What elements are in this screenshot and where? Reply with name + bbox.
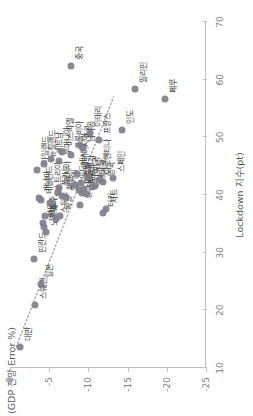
data-point-label: 캐나다 (41, 171, 52, 192)
data-point[interactable] (76, 202, 83, 209)
y-tick-label: -20 (162, 377, 172, 392)
data-point-label: 아르헨티나 (101, 139, 112, 174)
data-point[interactable] (42, 212, 49, 219)
data-point-label: 일본 (43, 264, 54, 278)
data-point-label: 미국 (89, 157, 100, 171)
x-tick-label: 30 (215, 247, 225, 258)
y-tick-label: -25 (201, 377, 211, 392)
data-point[interactable] (86, 129, 93, 136)
data-point[interactable] (162, 95, 169, 102)
data-point[interactable] (40, 160, 47, 167)
y-tick-mark (128, 368, 129, 372)
data-point[interactable] (74, 170, 81, 177)
rotated-figure-wrapper: (GDP 전망 Error %) Lockdown 지수(pt) 1020304… (0, 0, 253, 416)
data-point[interactable] (131, 85, 138, 92)
data-point-label: 차트 (108, 189, 119, 203)
data-point[interactable] (46, 200, 53, 207)
y-tick-mark (206, 368, 207, 372)
y-tick-label: -5 (44, 377, 54, 386)
data-point[interactable] (17, 344, 24, 351)
data-point[interactable] (57, 213, 64, 220)
data-point[interactable] (36, 195, 43, 202)
x-tick-label: 60 (215, 74, 225, 85)
x-tick-label: 70 (215, 16, 225, 27)
data-point[interactable] (68, 152, 75, 159)
data-point-label: 러시아 (60, 161, 71, 182)
data-point[interactable] (119, 126, 126, 133)
data-point[interactable] (32, 301, 39, 308)
data-point[interactable] (96, 177, 103, 184)
data-point-label: 대만 (22, 327, 33, 341)
data-point[interactable] (31, 256, 38, 263)
y-tick-label: -10 (83, 377, 93, 392)
data-point[interactable] (58, 149, 65, 156)
data-point[interactable] (95, 136, 102, 143)
y-tick-mark (49, 368, 50, 372)
x-tick-label: 20 (215, 305, 225, 316)
data-point[interactable] (38, 281, 45, 288)
data-point[interactable] (78, 180, 85, 187)
data-point[interactable] (103, 205, 110, 212)
scatter-chart: (GDP 전망 Error %) Lockdown 지수(pt) 1020304… (0, 0, 253, 416)
data-point[interactable] (39, 220, 46, 227)
y-tick-mark (88, 368, 89, 372)
data-point-label: 스페인 (115, 151, 126, 172)
data-point[interactable] (47, 155, 54, 162)
y-tick-label: 0 (5, 377, 15, 383)
data-point-label: 이태리 (91, 106, 102, 127)
plot-area: 10203040506070 0-5-10-15-20-25 대만스웨덴일본핀란… (10, 22, 206, 368)
data-point[interactable] (76, 142, 83, 149)
data-point[interactable] (84, 173, 91, 180)
data-point[interactable] (34, 167, 41, 174)
data-point-label: 인도 (124, 110, 135, 124)
data-point-label: 필리핀 (136, 62, 147, 83)
y-tick-label: -15 (123, 377, 133, 392)
x-axis-title: Lockdown 지수(pt) (232, 22, 246, 368)
x-tick-label: 40 (215, 189, 225, 200)
x-tick-label: 10 (215, 362, 225, 373)
data-point[interactable] (110, 175, 117, 182)
data-point[interactable] (55, 157, 62, 164)
y-tick-mark (10, 368, 11, 372)
x-tick-label: 50 (215, 132, 225, 143)
data-point-label: 페루 (167, 79, 178, 93)
data-point[interactable] (55, 185, 62, 192)
data-point-label: 이스라엘 (63, 118, 74, 146)
y-tick-mark (167, 368, 168, 372)
data-point-label: 중국 (73, 46, 84, 60)
data-point[interactable] (68, 62, 75, 69)
